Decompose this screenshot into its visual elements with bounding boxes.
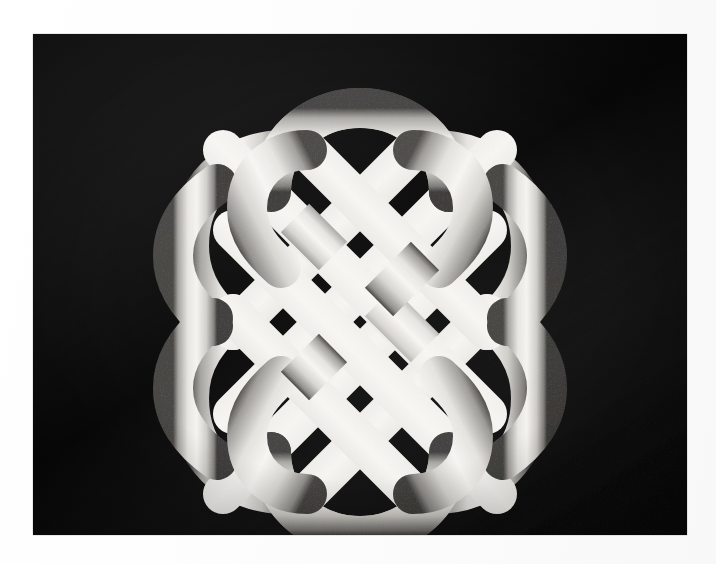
photo-lighting-overlay (33, 34, 687, 535)
scanned-page: Photograph of a white interlaced Celtic … (0, 0, 716, 564)
photograph: Photograph of a white interlaced Celtic … (33, 34, 687, 535)
celtic-knot-artwork (33, 34, 687, 535)
